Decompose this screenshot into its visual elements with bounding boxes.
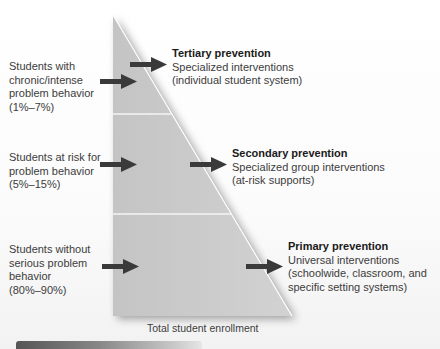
tier-description-line: specific setting systems) <box>288 281 427 295</box>
tier-description-line: Specialized group interventions <box>232 161 385 175</box>
tier-description-line: (individual student system) <box>172 74 302 88</box>
diagram-caption: Total student enrollment <box>147 322 258 334</box>
tier-description-line: (at-risk supports) <box>232 174 385 188</box>
tier-description-line: Specialized interventions <box>172 61 302 75</box>
population-label-primary: Students without serious problem behavio… <box>9 243 90 297</box>
tier-description-primary: Primary prevention Universal interventio… <box>288 240 427 294</box>
tier-description-line: Universal interventions <box>288 254 427 268</box>
prevention-diagram: Students with chronic/intense problem be… <box>0 0 440 349</box>
tier-description-tertiary: Tertiary prevention Specialized interven… <box>172 47 302 88</box>
tier-description-line: (schoolwide, classroom, and <box>288 267 427 281</box>
tier-title-secondary: Secondary prevention <box>232 147 385 161</box>
decorative-bar <box>16 341 202 349</box>
population-label-secondary: Students at risk for problem behavior (5… <box>9 151 101 192</box>
tier-title-primary: Primary prevention <box>288 240 427 254</box>
tier-title-tertiary: Tertiary prevention <box>172 47 302 61</box>
tier-description-secondary: Secondary prevention Specialized group i… <box>232 147 385 188</box>
population-label-tertiary: Students with chronic/intense problem be… <box>9 60 94 114</box>
